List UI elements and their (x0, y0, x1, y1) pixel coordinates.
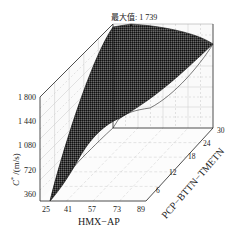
max-point-marker (130, 24, 132, 26)
z-tick: 1 080 (10, 142, 36, 150)
x-tick: 89 (131, 206, 151, 214)
x-tick: 41 (58, 206, 78, 214)
z-axis-label: C* /(m/s) (10, 153, 21, 186)
x-tick: 73 (107, 206, 127, 214)
z-tick: 360 (10, 191, 36, 199)
z-axis-label-sup: * (10, 177, 16, 180)
y-tick: 30 (217, 127, 225, 135)
max-value-annotation: 最大值: 1 739 (111, 14, 157, 22)
y-tick: 12 (169, 169, 177, 177)
x-axis-label: HMX−AP (78, 217, 120, 227)
y-tick: 24 (203, 140, 211, 148)
x-tick: 57 (82, 206, 102, 214)
z-axis-label-main: C (11, 180, 21, 186)
z-tick: 1 440 (10, 118, 36, 126)
z-axis-label-unit: /(m/s) (11, 153, 21, 177)
y-tick: 6 (156, 187, 160, 195)
y-tick: 18 (188, 153, 196, 161)
x-tick: 25 (36, 206, 56, 214)
z-tick: 1 800 (10, 94, 36, 102)
